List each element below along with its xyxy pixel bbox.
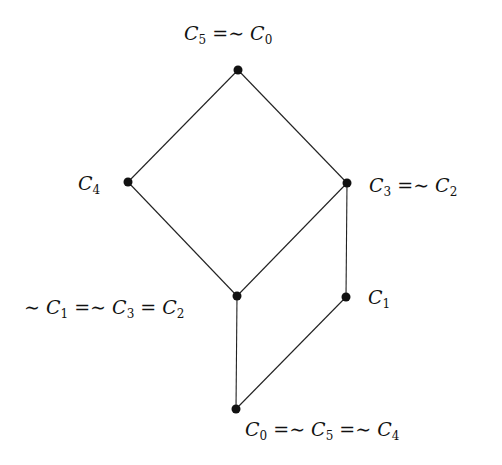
node-c3 — [343, 179, 352, 188]
edge-top-c3 — [238, 70, 347, 183]
diagram-nodes — [124, 66, 352, 414]
node-label-bottom: C0 =∼ C5 =∼ C4 — [245, 420, 399, 442]
diagram-edges — [128, 70, 347, 409]
edge-c1-bottom — [236, 297, 346, 409]
edge-mid-bottom — [236, 296, 237, 409]
node-bottom — [232, 405, 241, 414]
edge-c3-c1 — [346, 183, 347, 297]
node-label-c4: C4 — [78, 174, 100, 196]
edge-c3-mid — [237, 183, 347, 296]
node-top — [234, 66, 243, 75]
edge-c4-mid — [128, 182, 237, 296]
node-label-c1: C1 — [368, 288, 390, 310]
hasse-diagram — [0, 0, 502, 465]
node-label-top: C5 =∼ C0 — [184, 24, 272, 46]
node-c1 — [342, 293, 351, 302]
node-label-mid: ∼ C1 =∼ C3 = C2 — [24, 298, 184, 320]
node-label-c3: C3 =∼ C2 — [369, 176, 457, 198]
node-mid — [233, 292, 242, 301]
node-c4 — [124, 178, 133, 187]
edge-top-c4 — [128, 70, 238, 182]
